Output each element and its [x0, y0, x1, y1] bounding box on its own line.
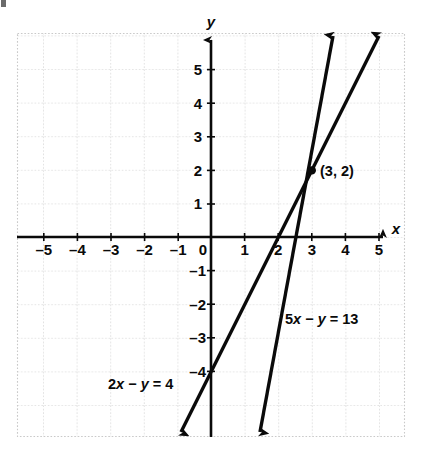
eq2-coefficient: 5 [285, 311, 293, 327]
eq1-operator: − [124, 376, 141, 392]
ytick-label-neg3: –3 [189, 329, 206, 346]
xtick-label-neg1: –1 [170, 241, 187, 258]
eq2-rhs: = 13 [326, 311, 359, 327]
y-axis-label: y [206, 13, 216, 30]
eq2-operator: − [301, 311, 318, 327]
xtick-label-1: 1 [240, 241, 248, 258]
intersection-point-label: (3, 2) [320, 163, 354, 179]
xtick-label-neg4: –4 [69, 241, 86, 258]
ytick-label-neg2: –2 [189, 296, 206, 313]
intersection-point-marker [308, 166, 316, 174]
ytick-label-3: 3 [194, 128, 202, 145]
equation-label-line2: 5x − y = 13 [285, 311, 358, 327]
ytick-label-2: 2 [194, 162, 202, 179]
xtick-label-neg2: –2 [136, 241, 153, 258]
eq1-coefficient: 2 [108, 376, 116, 392]
xtick-label-5: 5 [375, 241, 383, 258]
ytick-label-5: 5 [194, 61, 202, 78]
ytick-label-1: 1 [194, 195, 202, 212]
coordinate-plane-plot: –5 –4 –3 –2 –1 0 1 2 3 4 5 5 4 3 2 1 –1 … [0, 0, 433, 453]
xtick-label-3: 3 [308, 241, 316, 258]
xtick-label-4: 4 [341, 241, 350, 258]
ytick-label-neg4: –4 [189, 363, 206, 380]
ytick-label-4: 4 [194, 95, 203, 112]
x-axis-label: x [391, 220, 401, 237]
equation-label-line1: 2x − y = 4 [108, 376, 173, 392]
xtick-label-neg3: –3 [103, 241, 120, 258]
eq1-rhs: = 4 [149, 376, 174, 392]
xtick-label-2: 2 [274, 241, 282, 258]
graph-figure: –5 –4 –3 –2 –1 0 1 2 3 4 5 5 4 3 2 1 –1 … [0, 0, 433, 453]
ytick-label-neg1: –1 [189, 262, 206, 279]
xtick-label-neg5: –5 [35, 241, 52, 258]
xtick-label-zero: 0 [199, 241, 207, 258]
